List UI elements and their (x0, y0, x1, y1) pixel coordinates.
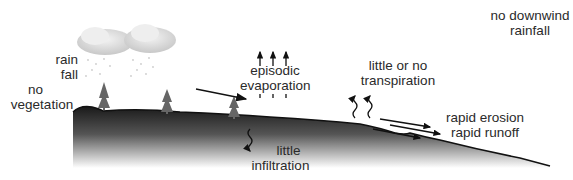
no-downwind-line2: rainfall (490, 23, 570, 38)
episodic-evaporation-line1: episodic (240, 63, 310, 78)
no-vegetation-label-line1: no (8, 82, 76, 97)
rainfall-label: rain fall (40, 52, 78, 82)
desertification-diagram: rain fall no vegetation episodic evapora… (0, 0, 573, 180)
rainfall-label-line2: fall (40, 67, 78, 82)
infiltration-line1: little (243, 143, 318, 158)
rain-drops-icon (85, 57, 154, 77)
transpiration-line1: little or no (358, 58, 438, 73)
rapid-erosion-label: rapid erosion (440, 110, 530, 125)
transpiration-label: little or no transpiration (358, 58, 438, 88)
no-downwind-rainfall-label: no downwind rainfall (490, 8, 570, 38)
no-downwind-line1: no downwind (490, 8, 570, 23)
episodic-evaporation-label: episodic evaporation (240, 63, 310, 93)
no-vegetation-label: no vegetation (8, 82, 76, 112)
rapid-runoff-label: rapid runoff (440, 125, 530, 140)
wind-arrow (196, 89, 246, 99)
little-infiltration-label: little infiltration (243, 143, 318, 173)
erosion-runoff-label: rapid erosion rapid runoff (440, 110, 530, 140)
tree-icon (228, 96, 240, 119)
cloud-icon (77, 24, 176, 55)
transpiration-line2: transpiration (358, 73, 438, 88)
no-vegetation-label-line2: vegetation (8, 97, 76, 112)
rainfall-label-line1: rain (40, 52, 78, 67)
infiltration-line2: infiltration (243, 158, 318, 173)
transpiration-squiggle-icon (353, 96, 372, 118)
tree-icon (98, 82, 110, 110)
episodic-evaporation-line2: evaporation (240, 78, 310, 93)
tree-icon (161, 89, 173, 114)
